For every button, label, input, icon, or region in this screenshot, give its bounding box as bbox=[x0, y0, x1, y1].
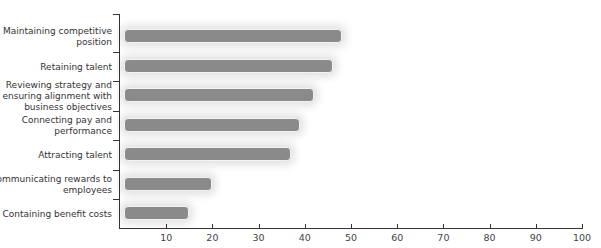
y-axis-tick bbox=[113, 170, 119, 171]
x-axis-tick bbox=[351, 224, 352, 228]
x-axis-tick bbox=[536, 224, 537, 228]
bar bbox=[124, 177, 212, 191]
x-axis bbox=[119, 228, 583, 229]
x-axis-tick-label: 70 bbox=[437, 232, 449, 243]
x-axis-tick bbox=[259, 224, 260, 228]
horizontal-bar-chart: Maintaining competitive position Retaini… bbox=[0, 0, 601, 248]
bar bbox=[124, 206, 189, 220]
category-label: Retaining talent bbox=[0, 62, 112, 73]
bar bbox=[124, 88, 314, 102]
x-axis-tick-label: 80 bbox=[484, 232, 496, 243]
bar bbox=[124, 118, 300, 132]
category-label: Communicating rewards to employees bbox=[0, 174, 112, 196]
category-label: Connecting pay and performance bbox=[0, 115, 112, 137]
x-axis-tick bbox=[443, 224, 444, 228]
category-label-line: ensuring alignment with bbox=[0, 91, 112, 102]
y-axis-tick bbox=[113, 199, 119, 200]
x-axis-tick-label: 100 bbox=[573, 232, 591, 243]
category-label-line: Containing benefit costs bbox=[0, 209, 112, 220]
category-label-line: employees bbox=[0, 185, 112, 196]
y-axis bbox=[119, 14, 120, 228]
category-label-line: business objectives bbox=[0, 102, 112, 113]
y-axis-tick bbox=[113, 111, 119, 112]
bar bbox=[124, 147, 291, 161]
y-axis-tick bbox=[113, 14, 119, 15]
x-axis-tick bbox=[212, 224, 213, 228]
category-label: Reviewing strategy and ensuring alignmen… bbox=[0, 80, 112, 113]
category-label-line: Connecting pay and bbox=[0, 115, 112, 126]
x-axis-tick-label: 30 bbox=[253, 232, 265, 243]
category-label-line: Maintaining competitive bbox=[0, 26, 112, 37]
bar bbox=[124, 29, 342, 43]
x-axis-tick bbox=[397, 224, 398, 228]
x-axis-tick bbox=[305, 224, 306, 228]
category-label-line: performance bbox=[0, 126, 112, 137]
y-axis-tick bbox=[113, 81, 119, 82]
category-label-line: position bbox=[0, 37, 112, 48]
x-axis-tick bbox=[166, 224, 167, 228]
category-label: Containing benefit costs bbox=[0, 209, 112, 220]
y-axis-tick bbox=[113, 140, 119, 141]
category-label-line: Reviewing strategy and bbox=[0, 80, 112, 91]
x-axis-tick bbox=[582, 224, 583, 228]
x-axis-tick-label: 50 bbox=[345, 232, 357, 243]
category-label-line: Attracting talent bbox=[0, 150, 112, 161]
x-axis-tick-label: 10 bbox=[160, 232, 172, 243]
x-axis-tick-label: 60 bbox=[391, 232, 403, 243]
x-axis-tick-label: 20 bbox=[206, 232, 218, 243]
category-label: Attracting talent bbox=[0, 150, 112, 161]
x-axis-tick-label: 40 bbox=[299, 232, 311, 243]
bar bbox=[124, 59, 333, 73]
category-label-line: Communicating rewards to bbox=[0, 174, 112, 185]
x-axis-tick bbox=[490, 224, 491, 228]
category-label-line: Retaining talent bbox=[0, 62, 112, 73]
x-axis-tick-label: 90 bbox=[530, 232, 542, 243]
category-label: Maintaining competitive position bbox=[0, 26, 112, 48]
y-axis-tick bbox=[113, 52, 119, 53]
